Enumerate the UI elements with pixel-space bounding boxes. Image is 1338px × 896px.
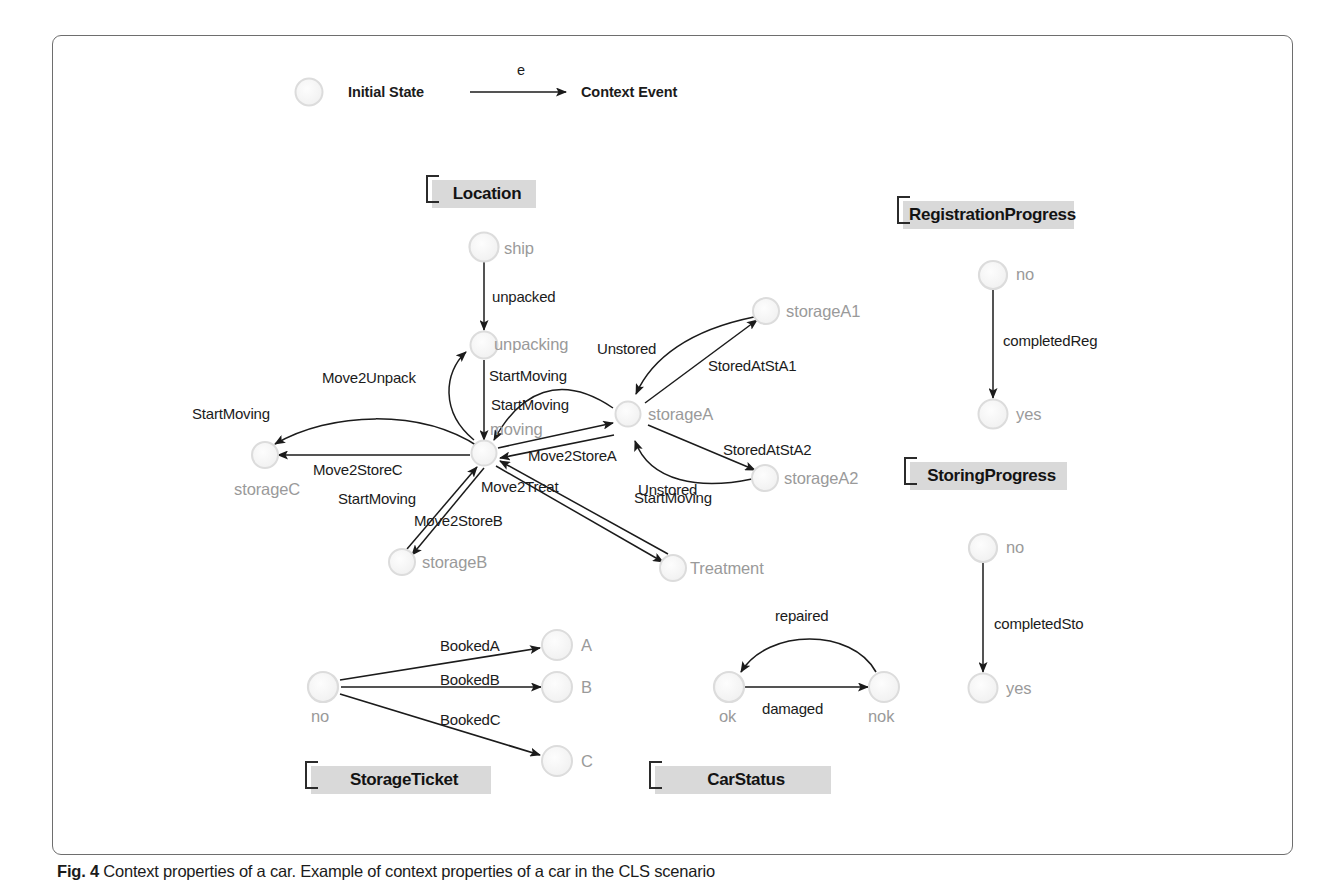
group-label-registration-progress: RegistrationProgress [903,205,1074,225]
group-box-storage-ticket: StorageTicket [311,766,491,794]
legend-context-event-label: Context Event [581,84,677,100]
legend-event-arrow-label: e [517,62,525,78]
edge-label-move2storec: Move2StoreC [313,461,403,478]
node-label-storageA2: storageA2 [784,469,858,488]
node-label-storageB: storageB [422,553,487,572]
edge-label-move2unpack: Move2Unpack [322,369,416,386]
edge-label-unstored-a1: Unstored [597,340,656,357]
edge-label-storedatsta1: StoredAtStA1 [708,357,797,374]
group-box-car-status: CarStatus [655,766,831,794]
edge-label-bookeda: BookedA [440,637,499,654]
edge-label-bookedb: BookedB [440,671,499,688]
node-label-status-nok: nok [868,707,894,726]
node-label-ticket-b: B [581,678,592,697]
edge-label-startmoving-storagec-moving: StartMoving [192,405,270,422]
edge-label-damaged: damaged [762,700,823,717]
edge-label-repaired: repaired [775,607,828,624]
node-label-ship: ship [504,239,534,258]
node-label-moving: moving [490,420,543,439]
node-label-ticket-a: A [581,636,592,655]
node-label-sto-no: no [1006,538,1024,557]
figure-frame [52,35,1293,855]
group-bracket-icon [904,457,917,485]
edge-label-unpacked: unpacked [492,288,555,305]
group-label-storage-ticket: StorageTicket [311,770,491,790]
group-box-location: Location [432,180,536,208]
node-label-sto-yes: yes [1006,679,1031,698]
edge-label-completedreg: completedReg [1003,332,1097,349]
node-label-ticket-no: no [311,707,329,726]
node-label-status-ok: ok [719,707,736,726]
group-box-registration-progress: RegistrationProgress [903,201,1074,229]
edge-label-completedsto: completedSto [994,615,1083,632]
edge-label-startmoving-unpacking-moving: StartMoving [489,367,567,384]
group-bracket-icon [426,175,439,203]
group-label-storing-progress: StoringProgress [910,466,1067,486]
edge-label-move2storea: Move2StoreA [528,447,617,464]
group-label-car-status: CarStatus [655,770,831,790]
figure-caption: Fig. 4 Context properties of a car. Exam… [57,862,715,881]
edge-label-startmoving-storagea-moving: StartMoving [491,396,569,413]
edge-label-storedatsta2: StoredAtStA2 [723,441,812,458]
edge-label-move2treat: Move2Treat [481,478,558,495]
node-label-treatment: Treatment [690,559,764,578]
edge-label-unstored-a2: Unstored [638,481,697,498]
group-label-location: Location [432,184,536,204]
edge-label-move2storeb: Move2StoreB [414,512,503,529]
figure-caption-text: Context properties of a car. Example of … [99,862,715,880]
edge-label-startmoving-storageb-moving: StartMoving [338,490,416,507]
node-label-reg-no: no [1016,265,1034,284]
legend-initial-state-label: Initial State [348,84,424,100]
node-label-storageA1: storageA1 [786,302,860,321]
node-label-storageA: storageA [648,405,713,424]
node-label-storageC: storageC [234,480,300,499]
edge-label-bookedc: BookedC [440,711,500,728]
group-bracket-icon [897,196,910,224]
group-bracket-icon [649,761,662,789]
figure-caption-label: Fig. 4 [57,862,99,880]
node-label-unpacking: unpacking [494,335,568,354]
node-label-reg-yes: yes [1016,405,1041,424]
group-bracket-icon [305,761,318,789]
group-box-storing-progress: StoringProgress [910,462,1067,490]
node-label-ticket-c: C [581,752,593,771]
